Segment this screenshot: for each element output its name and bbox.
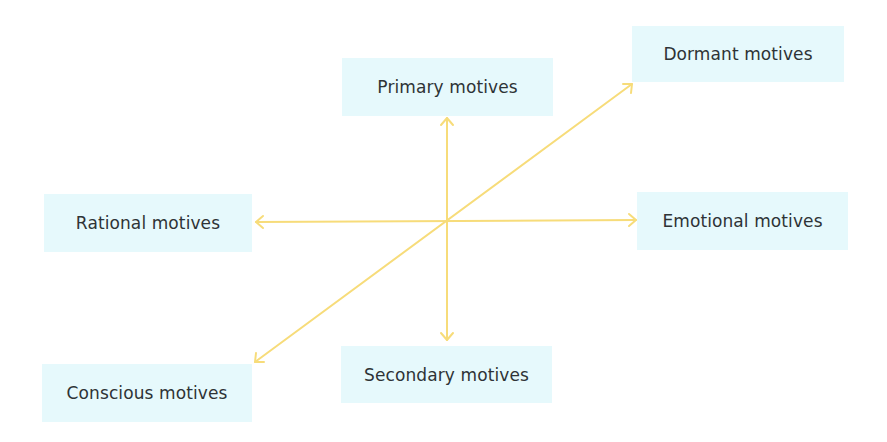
vertical-double-arrow	[441, 118, 453, 340]
primary-motives-label: Primary motives	[377, 77, 517, 97]
conscious-motives-box: Conscious motives	[42, 364, 252, 422]
secondary-motives-label: Secondary motives	[364, 365, 529, 385]
primary-motives-box: Primary motives	[342, 58, 553, 116]
secondary-motives-box: Secondary motives	[341, 346, 552, 403]
motives-diagram: Primary motives Dormant motives Rational…	[0, 0, 887, 442]
dormant-motives-box: Dormant motives	[632, 26, 844, 82]
dormant-motives-label: Dormant motives	[663, 44, 812, 64]
diagonal-double-arrow	[255, 84, 632, 362]
rational-motives-box: Rational motives	[44, 194, 252, 252]
conscious-motives-label: Conscious motives	[67, 383, 228, 403]
emotional-motives-label: Emotional motives	[662, 211, 822, 231]
emotional-motives-box: Emotional motives	[637, 192, 848, 250]
rational-motives-label: Rational motives	[76, 213, 220, 233]
